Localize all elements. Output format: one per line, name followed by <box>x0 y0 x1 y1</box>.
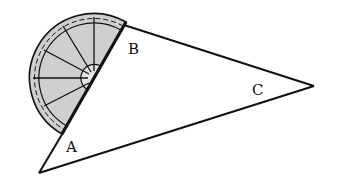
protractor <box>30 14 126 134</box>
label-vertex-a: A <box>65 138 77 156</box>
diagram-canvas: B A C <box>0 0 338 179</box>
triangle-protractor-diagram: B A C <box>0 0 338 179</box>
label-vertex-b: B <box>128 40 139 58</box>
label-vertex-c: C <box>252 81 263 99</box>
